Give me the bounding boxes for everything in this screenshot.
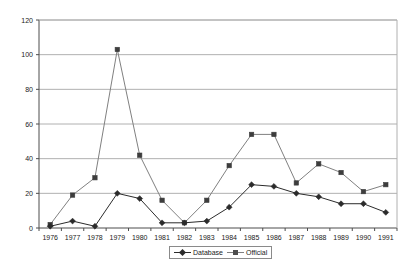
data-point-marker-diamond	[271, 184, 277, 190]
data-point-marker-square	[384, 182, 388, 186]
data-point-marker-diamond	[114, 190, 120, 196]
y-tick-label: 120	[21, 17, 33, 24]
data-point-marker-diamond	[316, 194, 322, 200]
data-point-marker-diamond	[361, 201, 367, 207]
data-point-marker-square	[272, 132, 276, 136]
x-tick-label: 1977	[65, 234, 81, 241]
series-line-official	[50, 49, 386, 224]
data-point-marker-square	[339, 170, 343, 174]
x-tick-label: 1984	[221, 234, 237, 241]
x-tick-label: 1988	[311, 234, 327, 241]
y-tick-label: 60	[25, 121, 33, 128]
series-official-line	[48, 47, 388, 226]
y-tick-label: 80	[25, 86, 33, 93]
x-tick-labels-group: 1976197719781979198019811982198319841985…	[42, 234, 393, 241]
x-tick-label: 1987	[289, 234, 305, 241]
y-tick-labels-group: 020406080100120	[21, 17, 33, 232]
legend-entry-official: Official	[227, 249, 267, 256]
x-tick-label: 1982	[177, 234, 193, 241]
x-tick-label: 1981	[154, 234, 170, 241]
data-point-marker-diamond	[204, 218, 210, 224]
chart-container: 020406080100120 197619771978197919801981…	[0, 0, 417, 265]
data-point-marker-square	[227, 163, 231, 167]
data-point-marker-square	[70, 193, 74, 197]
legend-marker-diamond-icon	[174, 249, 191, 256]
y-tick-label: 20	[25, 190, 33, 197]
data-point-marker-diamond	[338, 201, 344, 207]
x-tick-label: 1979	[110, 234, 126, 241]
x-tick-label: 1980	[132, 234, 148, 241]
data-point-marker-square	[205, 198, 209, 202]
legend-label-database: Database	[193, 249, 223, 256]
data-point-marker-square	[316, 162, 320, 166]
chart-legend: Database Official	[169, 246, 272, 259]
data-point-marker-square	[249, 132, 253, 136]
data-point-marker-square	[361, 189, 365, 193]
x-tick-label: 1990	[356, 234, 372, 241]
x-tick-label: 1986	[266, 234, 282, 241]
x-tick-label: 1985	[244, 234, 260, 241]
legend-entry-database: Database	[174, 249, 223, 256]
data-point-marker-square	[160, 198, 164, 202]
x-tick-label: 1983	[199, 234, 215, 241]
legend-marker-square-icon	[227, 249, 244, 256]
chart-plot-svg: 020406080100120 197619771978197919801981…	[0, 0, 417, 265]
data-point-marker-square	[137, 153, 141, 157]
data-point-marker-square	[115, 47, 119, 51]
series-database-line	[47, 182, 388, 229]
series-line-database	[50, 185, 386, 227]
x-tick-label: 1976	[42, 234, 58, 241]
data-point-marker-diamond	[293, 190, 299, 196]
x-tick-label: 1978	[87, 234, 103, 241]
y-tick-label: 0	[29, 225, 33, 232]
data-point-marker-square	[93, 176, 97, 180]
data-point-marker-square	[294, 181, 298, 185]
x-tick-label: 1991	[378, 234, 394, 241]
data-point-marker-diamond	[70, 218, 76, 224]
y-tick-label: 40	[25, 155, 33, 162]
x-tick-label: 1989	[333, 234, 349, 241]
data-point-marker-diamond	[383, 210, 389, 216]
gridlines-group	[39, 20, 397, 193]
legend-label-official: Official	[246, 249, 267, 256]
y-tick-label: 100	[21, 51, 33, 58]
